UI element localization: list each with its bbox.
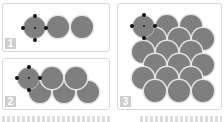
center-point [34, 27, 36, 29]
resize-handle-right[interactable] [153, 24, 157, 28]
center-point [143, 25, 145, 27]
caption-fragment [140, 116, 222, 122]
circle [168, 80, 190, 102]
resize-handle-left[interactable] [21, 26, 25, 30]
circle [65, 67, 87, 89]
panel-1: 1 [2, 3, 110, 52]
resize-handle-right[interactable] [38, 76, 42, 80]
resize-handle-left[interactable] [15, 76, 19, 80]
panel-number-badge: 2 [5, 96, 16, 107]
circle [144, 80, 166, 102]
center-point [28, 77, 30, 79]
resize-handle-bottom[interactable] [33, 38, 37, 42]
resize-handle-top[interactable] [33, 14, 37, 18]
resize-handle-bottom[interactable] [27, 88, 31, 92]
resize-handle-left[interactable] [130, 24, 134, 28]
panel-number-badge: 3 [120, 96, 131, 107]
circle [41, 67, 63, 89]
resize-handle-bottom[interactable] [142, 36, 146, 40]
circle [47, 16, 69, 38]
panel-number-badge: 1 [5, 38, 16, 49]
resize-handle-right[interactable] [44, 26, 48, 30]
circle [192, 80, 214, 102]
circle [71, 16, 93, 38]
caption-fragment [2, 116, 110, 122]
resize-handle-top[interactable] [142, 13, 146, 17]
resize-handle-top[interactable] [27, 65, 31, 69]
panel-2: 2 [2, 58, 110, 110]
panel-3: 3 [117, 3, 222, 110]
